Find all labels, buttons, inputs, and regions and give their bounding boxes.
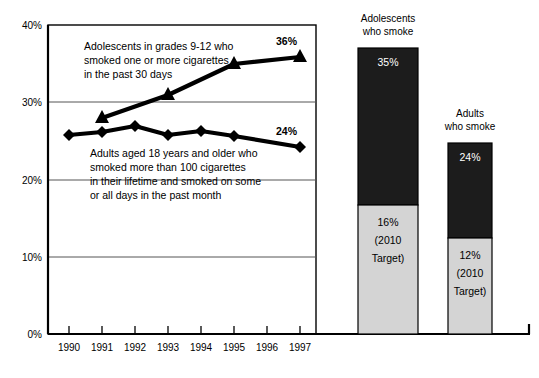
- adults-bar-target-label-line-1: 12%: [459, 249, 480, 261]
- adult-annotation-line-3: in their lifetime and smoked on some: [90, 175, 261, 187]
- x-tick-label-1995: 1995: [223, 342, 246, 353]
- bar-chart-svg: Adolescents who smoke 35% 16% (2010 Targ…: [340, 0, 539, 378]
- adolescents-bar-target-label-line-2: (2010: [375, 234, 402, 246]
- adolescent-annotation-line-1: Adolescents in grades 9-12 who: [84, 40, 234, 52]
- x-tick-label-1997: 1997: [289, 342, 312, 353]
- adolescent-annotation-line-2: smoked one or more cigarettes: [84, 54, 229, 66]
- adult-annotation-line-1: Adults aged 18 years and older who: [90, 147, 258, 159]
- adult-annotation-line-4: or all days in the past month: [90, 189, 221, 201]
- x-tick-label-1992: 1992: [124, 342, 147, 353]
- y-tick-label-10: 10%: [22, 252, 42, 263]
- adults-bar-title-line-1: Adults: [456, 108, 484, 119]
- adults-bar: Adults who smoke 24% 12% (2010 Target): [444, 108, 496, 334]
- x-tick-label-1993: 1993: [157, 342, 180, 353]
- y-tick-label-30: 30%: [22, 97, 42, 108]
- x-tick-label-1996: 1996: [256, 342, 279, 353]
- y-tick-label-40: 40%: [22, 20, 42, 31]
- smoking-prevalence-figure: 40% 30% 20% 10% 0% 1990 1991: [0, 0, 539, 378]
- y-tick-label-20: 20%: [22, 175, 42, 186]
- adults-bar-target-label-line-2: (2010: [457, 267, 484, 279]
- x-tick-label-1991: 1991: [91, 342, 114, 353]
- x-tick-label-1990: 1990: [58, 342, 81, 353]
- line-chart-svg: 40% 30% 20% 10% 0% 1990 1991: [0, 0, 340, 378]
- endpoint-label-adolescents: 36%: [276, 35, 298, 47]
- adolescent-annotation-line-3: in the past 30 days: [84, 68, 172, 80]
- x-axis-tick-labels: 1990 1991 1992 1993 1994 1995 1996 1997: [58, 342, 312, 353]
- endpoint-label-adults: 24%: [276, 125, 298, 137]
- adolescents-bar: Adolescents who smoke 35% 16% (2010 Targ…: [358, 13, 418, 334]
- adolescents-bar-title-line-1: Adolescents: [361, 13, 415, 24]
- adolescents-bar-target-label-line-3: Target): [372, 252, 405, 264]
- bar-chart-panel: Adolescents who smoke 35% 16% (2010 Targ…: [340, 0, 539, 378]
- adult-annotation-line-2: smoked more than 100 cigarettes: [90, 161, 246, 173]
- adolescents-bar-current-segment: [358, 48, 418, 205]
- y-tick-label-0: 0%: [28, 329, 43, 340]
- adolescents-bar-title-line-2: who smoke: [362, 26, 414, 37]
- adolescents-bar-target-label-line-1: 16%: [377, 216, 398, 228]
- adults-bar-current-label: 24%: [459, 151, 480, 163]
- adolescents-bar-current-label: 35%: [377, 56, 398, 68]
- adults-bar-target-label-line-3: Target): [454, 285, 487, 297]
- y-axis-tick-labels: 40% 30% 20% 10% 0%: [22, 20, 42, 340]
- adults-bar-title-line-2: who smoke: [444, 121, 496, 132]
- line-chart-panel: 40% 30% 20% 10% 0% 1990 1991: [0, 0, 340, 378]
- x-tick-label-1994: 1994: [190, 342, 213, 353]
